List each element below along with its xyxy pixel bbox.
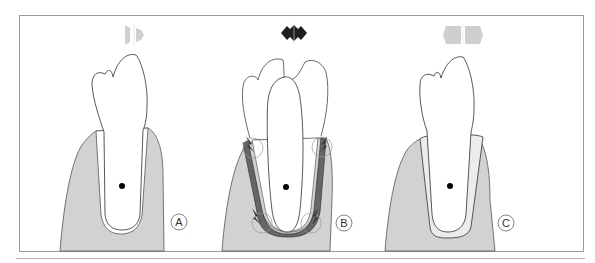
- light-gray-bidirectional-arrow-icon: [443, 24, 483, 46]
- panel-label-c: C: [502, 217, 510, 229]
- panel-label-b: B: [340, 217, 347, 229]
- center-of-rotation-dot: [119, 183, 125, 189]
- center-of-rotation-dot: [283, 184, 289, 190]
- center-of-rotation-dot: [447, 183, 453, 189]
- periodontal-diagram: A B: [0, 0, 595, 263]
- panel-label-a: A: [175, 216, 183, 228]
- tooth: [267, 77, 303, 232]
